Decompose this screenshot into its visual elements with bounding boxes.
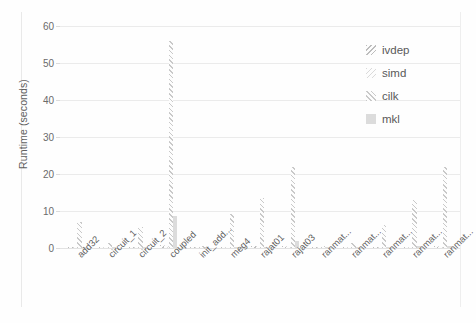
legend-label: cilk [382,90,399,102]
x-label-cell: circuit_1 [92,250,122,312]
y-tick-label-0: 0 [48,243,54,254]
bar-cilk [412,200,416,248]
x-label-cell: circuit_2 [123,250,153,312]
x-label-cell: rajat03 [275,250,305,312]
y-tick-label-20: 20 [43,169,54,180]
x-label-cell: ranmat... [397,250,427,312]
x-label-cell: ranmat... [336,250,366,312]
x-label-cell: init_add... [184,250,214,312]
bar-chart: Runtime (seconds) 0102030405060 add32cir… [0,0,476,323]
x-label-cell: rajat01 [245,250,275,312]
x-label-cell: coupled [153,250,183,312]
x-label-cell: ranmat... [367,250,397,312]
bar-group [153,26,183,248]
legend-item-simd[interactable]: simd [366,67,410,79]
legend-label: mkl [382,113,400,125]
x-label-cell: add32 [62,250,92,312]
bar-group [428,26,458,248]
y-tick-label-50: 50 [43,58,54,69]
bar-cilk [291,167,295,248]
hatch-slash-swatch [366,91,376,101]
hatch-backslash-swatch [366,45,376,55]
y-tick-label-60: 60 [43,21,54,32]
legend-label: simd [382,67,406,79]
x-axis-labels: add32circuit_1circuit_2coupledinit_add..… [60,250,460,312]
bar-group [336,26,366,248]
bar-group [62,26,92,248]
legend-item-mkl[interactable]: mkl [366,113,410,125]
y-tick-label-40: 40 [43,95,54,106]
legend-item-cilk[interactable]: cilk [366,90,410,102]
bar-group [92,26,122,248]
y-tick-label-30: 30 [43,132,54,143]
legend-item-ivdep[interactable]: ivdep [366,44,410,56]
bar-cilk [443,167,447,248]
bar-group [184,26,214,248]
bar-group [306,26,336,248]
y-axis-title: Runtime (seconds) [17,49,29,199]
y-tick-mark-0 [56,248,60,249]
bar-cilk [260,198,264,248]
bar-group [214,26,244,248]
legend-label: ivdep [382,44,410,56]
bar-group [123,26,153,248]
bar-group [275,26,305,248]
bar-group [245,26,275,248]
dots-swatch [366,68,376,78]
x-label-cell: meg4 [214,250,244,312]
chart-legend: ivdepsimdcilkmkl [366,44,410,125]
solid-swatch [366,114,376,124]
y-tick-label-10: 10 [43,206,54,217]
x-label-cell: ranmat... [306,250,336,312]
x-label-cell: ranmat... [428,250,458,312]
